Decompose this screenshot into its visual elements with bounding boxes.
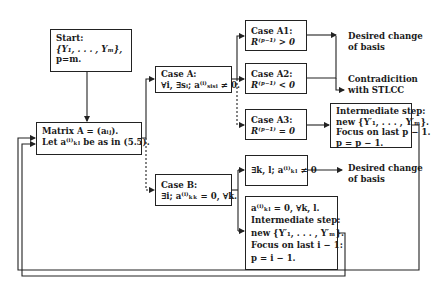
matrix-line-1: Matrix A = (aᵢⱼ). xyxy=(42,126,136,137)
start-line-3: p=m. xyxy=(56,54,126,65)
a1-result-line-2: of basis xyxy=(348,42,423,53)
case-a1-box: Case A1: R⁽ᵖ⁻¹⁾ > 0 xyxy=(245,20,307,51)
b1-result-label: Desired change of basis xyxy=(348,163,423,184)
intermediate-a3-box: Intermediate step: new {Y′₁, . . . , Y′ₘ… xyxy=(330,103,412,148)
case-b-line-2: ∃i; a⁽ⁱ⁾ₖₖ = 0, ∀k. xyxy=(161,191,226,202)
case-a1-line-1: Case A1: xyxy=(251,26,301,37)
a2-result-label: Contradicition with STLCC xyxy=(348,74,418,95)
edge-case-a-a1 xyxy=(237,36,244,79)
case-b2-line-5: p = i − 1. xyxy=(251,252,332,264)
edge-matrix-case-a xyxy=(141,79,154,138)
intermediate-a3-line-2: new {Y′₁, . . . , Y′ₘ}. xyxy=(336,117,406,128)
a1-result-line-1: Desired change xyxy=(348,31,423,42)
case-a3-line-2: R⁽ᵖ⁻¹⁾ = 0 xyxy=(251,126,301,137)
case-a2-line-1: Case A2: xyxy=(251,69,301,80)
a1-result-label: Desired change of basis xyxy=(348,31,423,52)
case-b1-line-1: ∃k, l; a⁽ⁱ⁾ₖₗ ≠ 0 xyxy=(251,165,302,176)
case-b2-line-4: Focus on last i − 1: xyxy=(251,239,332,251)
matrix-box: Matrix A = (aᵢⱼ). Let a⁽ⁱ⁾ₖₗ be as in (5… xyxy=(36,122,142,155)
matrix-line-2: Let a⁽ⁱ⁾ₖₗ be as in (5.5). xyxy=(42,137,136,148)
case-b2-box: a⁽ⁱ⁾ₖₗ = 0, ∀k, l. Intermediate step: ne… xyxy=(245,196,338,270)
case-a3-line-1: Case A3: xyxy=(251,115,301,126)
start-line-1: Start: xyxy=(56,33,126,44)
b1-result-line-1: Desired change xyxy=(348,163,423,174)
b1-result-line-2: of basis xyxy=(348,174,423,185)
case-a2-line-2: R⁽ᵖ⁻¹⁾ < 0 xyxy=(251,80,301,91)
edge-a2-result xyxy=(336,78,344,90)
case-a3-box: Case A3: R⁽ᵖ⁻¹⁾ = 0 xyxy=(245,109,307,140)
case-a2-box: Case A2: R⁽ᵖ⁻¹⁾ < 0 xyxy=(245,63,307,94)
case-b2-line-3: new {Y′₁, . . . , Y′ₘ}. xyxy=(251,227,332,239)
case-b-line-1: Case B: xyxy=(161,180,226,191)
start-box: Start: {Y₁, . . . , Yₘ}, p=m. xyxy=(50,29,132,72)
case-a-line-2: ∀i, ∃sᵢ; a⁽ⁱ⁾ₛᵢₛᵢ ≠ 0. xyxy=(161,80,226,91)
case-a-box: Case A: ∀i, ∃sᵢ; a⁽ⁱ⁾ₛᵢₛᵢ ≠ 0. xyxy=(155,66,232,93)
intermediate-a3-line-4: p = p − 1. xyxy=(336,138,406,149)
a2-result-line-2: with STLCC xyxy=(348,85,418,96)
intermediate-a3-line-3: Focus on last p − 1. xyxy=(336,127,406,138)
intermediate-a3-line-1: Intermediate step: xyxy=(336,106,406,117)
case-b-box: Case B: ∃i; a⁽ⁱ⁾ₖₖ = 0, ∀k. xyxy=(155,174,232,206)
a2-result-line-1: Contradicition xyxy=(348,74,418,85)
case-b2-line-1: a⁽ⁱ⁾ₖₗ = 0, ∀k, l. xyxy=(251,202,332,214)
case-b1-box: ∃k, l; a⁽ⁱ⁾ₖₗ ≠ 0 xyxy=(245,155,308,186)
case-a-line-1: Case A: xyxy=(161,69,226,80)
start-line-2: {Y₁, . . . , Yₘ}, xyxy=(56,44,126,55)
case-a1-line-2: R⁽ᵖ⁻¹⁾ > 0 xyxy=(251,37,301,48)
case-b2-line-2: Intermediate step: xyxy=(251,214,332,226)
